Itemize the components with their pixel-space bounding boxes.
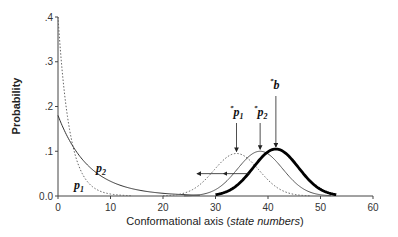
y-axis-title: Probability bbox=[10, 77, 22, 135]
label-p1: p1 bbox=[73, 178, 84, 194]
y-ticks: 0.0.1.2.3.4 bbox=[39, 12, 58, 202]
y-tick-label: .2 bbox=[45, 101, 54, 112]
x-tick-label: 40 bbox=[262, 202, 274, 213]
label-star-b: *b bbox=[270, 77, 280, 92]
curve-star-b bbox=[216, 149, 337, 195]
axes: 0.0.1.2.3.4 0102030405060 bbox=[39, 12, 379, 214]
x-tick-label: 30 bbox=[210, 202, 222, 213]
label-star-p1: *p1 bbox=[230, 104, 244, 121]
x-tick-label: 10 bbox=[105, 202, 117, 213]
y-tick-label: 0.0 bbox=[39, 191, 53, 202]
probability-chart: 0.0.1.2.3.4 0102030405060 Probability Co… bbox=[0, 0, 398, 237]
y-tick-label: .1 bbox=[45, 146, 54, 157]
curve-p1 bbox=[58, 17, 132, 196]
x-tick-label: 0 bbox=[55, 202, 61, 213]
x-axis-title: Conformational axis (state numbers) bbox=[126, 215, 303, 227]
y-tick-label: .3 bbox=[45, 56, 54, 67]
x-ticks: 0102030405060 bbox=[55, 196, 379, 213]
label-star-p2: *p2 bbox=[254, 104, 268, 121]
x-tick-label: 50 bbox=[315, 202, 327, 213]
x-tick-label: 60 bbox=[367, 202, 379, 213]
x-tick-label: 20 bbox=[157, 202, 169, 213]
label-p2: p2 bbox=[95, 161, 106, 177]
y-tick-label: .4 bbox=[45, 12, 54, 23]
